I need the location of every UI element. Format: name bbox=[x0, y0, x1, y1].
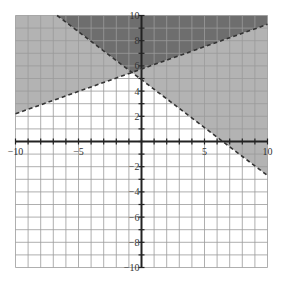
y-tick-label: −2 bbox=[129, 161, 140, 172]
x-tick-label: −5 bbox=[73, 146, 84, 157]
y-tick-label: 4 bbox=[135, 86, 140, 97]
x-tick-label: 5 bbox=[202, 146, 207, 157]
y-tick-label: −6 bbox=[129, 212, 140, 223]
y-tick-label: 2 bbox=[135, 111, 140, 122]
y-tick-label: −4 bbox=[129, 186, 140, 197]
x-tick-label: 10 bbox=[263, 146, 273, 157]
y-tick-label: 10 bbox=[130, 10, 140, 21]
y-tick-label: 8 bbox=[135, 35, 140, 46]
x-tick-label: −10 bbox=[8, 146, 24, 157]
y-tick-label: −10 bbox=[124, 262, 140, 273]
y-tick-label: −8 bbox=[129, 237, 140, 248]
inequality-graph: −10−5510108642−2−4−6−8−10 bbox=[0, 0, 281, 287]
y-tick-label: 6 bbox=[135, 60, 140, 71]
